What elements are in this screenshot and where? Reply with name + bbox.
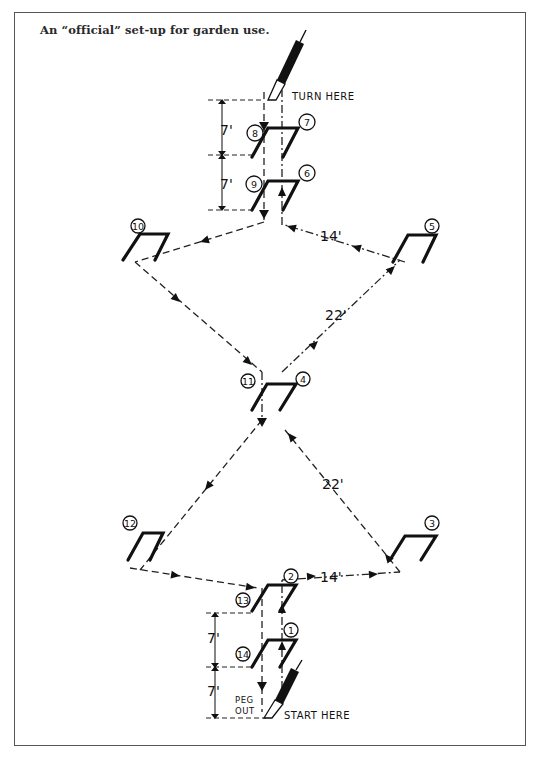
arrow-up-right-icon: [309, 338, 321, 350]
arrow-left-icon: [199, 236, 210, 246]
hoop-number-11: 11: [241, 374, 255, 388]
hoop-number-5: 5: [425, 219, 439, 233]
svg-text:6: 6: [304, 168, 310, 179]
hoop-lower-top: [252, 585, 296, 611]
distance-label-upper-diagonal: 22': [325, 307, 347, 323]
hoop-lower-bottom: [252, 640, 296, 667]
turn-stake: [268, 30, 306, 100]
distance-label-lower-bottom: 7': [207, 683, 220, 699]
arrow-down-icon: [257, 682, 267, 691]
turn-here-label: TURN HERE: [291, 91, 355, 102]
arrow-right-icon: [307, 572, 317, 581]
svg-text:11: 11: [242, 376, 254, 387]
svg-text:10: 10: [132, 221, 144, 232]
peg-label: PEG: [235, 695, 254, 705]
svg-text:2: 2: [288, 571, 294, 582]
hoop-center: [252, 384, 296, 410]
croquet-layout-diagram: 7' 7' 7' 7' 14' 14' 22' 22' TURN HERE ST…: [0, 0, 537, 759]
hoop-number-13: 13: [236, 593, 250, 607]
hoop-number-8: 8: [247, 125, 263, 141]
distance-label-lower-diagonal: 22': [322, 476, 344, 492]
distance-label-lower-top: 7': [207, 630, 220, 646]
hoops: [123, 128, 436, 667]
hoop-number-14: 14: [236, 647, 250, 661]
svg-text:4: 4: [300, 374, 306, 385]
arrow-down-right-icon: [243, 356, 255, 368]
arrow-left-icon: [286, 222, 297, 232]
arrow-left-icon: [351, 242, 362, 252]
svg-text:14: 14: [237, 649, 249, 660]
svg-text:12: 12: [124, 518, 136, 529]
out-label: OUT: [235, 706, 255, 716]
hoop-number-1: 1: [284, 623, 298, 637]
distance-label-upper-bottom: 7': [220, 176, 233, 192]
arrow-right-icon: [369, 570, 379, 579]
hoop-number-9: 9: [246, 176, 262, 192]
arrow-up-icon: [278, 187, 286, 196]
distance-label-upper-right: 14': [320, 228, 342, 244]
arrow-down-icon: [257, 418, 267, 427]
hoop-number-10: 10: [131, 219, 145, 233]
distance-label-upper-top: 7': [220, 122, 233, 138]
hoop-number-3: 3: [425, 516, 439, 530]
hoop-number-4: 4: [296, 372, 310, 386]
svg-text:1: 1: [288, 625, 294, 636]
hoop-number-7: 7: [299, 114, 315, 130]
hoop-left-upper: [123, 234, 168, 260]
arrow-down-icon: [259, 210, 269, 219]
distance-label-lower-right: 14': [320, 569, 342, 585]
svg-text:5: 5: [429, 221, 435, 232]
svg-text:8: 8: [252, 128, 258, 139]
hoop-order-numbers: 1 2 3 4 5 6 7 8 9 10 11 12 13 14: [123, 114, 439, 661]
hoop-right-upper: [393, 235, 436, 262]
start-here-label: START HERE: [284, 710, 350, 721]
svg-text:13: 13: [237, 595, 249, 606]
hoop-number-2: 2: [284, 569, 298, 583]
svg-text:7: 7: [304, 117, 310, 128]
arrow-up-right-icon: [386, 263, 398, 275]
hoop-right-lower: [390, 536, 436, 560]
arrow-up-icon: [278, 641, 286, 650]
hoop-number-12: 12: [123, 516, 137, 530]
svg-text:3: 3: [429, 518, 435, 529]
hoop-left-lower: [128, 533, 163, 560]
hoop-number-6: 6: [299, 165, 315, 181]
svg-text:9: 9: [251, 179, 257, 190]
